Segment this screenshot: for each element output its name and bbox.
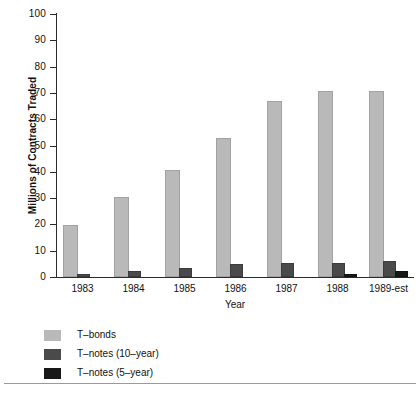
chart-legend: T–bondsT–notes (10–year)T–notes (5–year)	[44, 327, 344, 384]
chart-figure: 0102030405060708090100 Millions of Contr…	[0, 0, 420, 394]
legend-label: T–bonds	[77, 328, 116, 341]
y-axis-tick	[50, 277, 56, 278]
legend-item: T–notes (10–year)	[44, 346, 344, 365]
bar	[114, 197, 129, 277]
y-axis-tick-label: 90	[12, 35, 46, 45]
y-axis-title-holder: Millions of Contracts Traded	[14, 0, 15, 290]
bar	[344, 274, 357, 277]
y-axis-title: Millions of Contracts Traded	[27, 56, 38, 236]
y-axis-tick	[50, 67, 56, 68]
bar-group	[210, 14, 261, 277]
y-axis-tick-label: 100	[12, 9, 46, 19]
legend-label: T–notes (10–year)	[77, 347, 159, 360]
x-axis-line	[56, 277, 414, 278]
footer-divider	[4, 383, 416, 384]
bar	[395, 271, 408, 277]
y-axis-tick	[50, 119, 56, 120]
bar	[230, 264, 243, 277]
legend-swatch	[44, 330, 61, 341]
y-axis-tick	[50, 93, 56, 94]
bar	[267, 101, 282, 277]
y-axis-tick	[50, 224, 56, 225]
legend-item: T–bonds	[44, 327, 344, 346]
legend-swatch	[44, 368, 61, 379]
bar	[128, 271, 141, 277]
bar	[63, 225, 78, 277]
y-axis-tick-label: 10	[12, 246, 46, 256]
bar	[369, 91, 384, 277]
cropped-top-text	[30, 0, 230, 3]
y-axis-tick-label-text: 100	[20, 9, 46, 19]
legend-item: T–notes (5–year)	[44, 365, 344, 384]
y-axis-tick-label: 0	[12, 272, 46, 282]
legend-label: T–notes (5–year)	[77, 366, 153, 379]
bar-group	[363, 14, 414, 277]
bar	[318, 91, 333, 277]
bar	[179, 268, 192, 277]
x-axis-title: Year	[56, 299, 414, 310]
bar-group	[312, 14, 363, 277]
bar	[165, 170, 180, 277]
x-axis-tick-label: 1989-est	[349, 283, 420, 294]
bar-group	[261, 14, 312, 277]
y-axis-tick	[50, 172, 56, 173]
bar-group	[159, 14, 210, 277]
y-axis-tick	[50, 40, 56, 41]
y-axis-tick	[50, 251, 56, 252]
bar	[77, 274, 90, 277]
plot-area	[57, 14, 414, 277]
legend-swatch	[44, 349, 61, 360]
y-axis-tick	[50, 198, 56, 199]
bar	[281, 263, 294, 277]
y-axis-tick-label-text: 90	[20, 35, 46, 45]
y-axis-tick	[50, 14, 56, 15]
bar-group	[57, 14, 108, 277]
y-axis-tick-label-text: 0	[20, 272, 46, 282]
bar-group	[108, 14, 159, 277]
y-axis-tick-label-text: 10	[20, 246, 46, 256]
bar	[216, 138, 231, 277]
y-axis-tick	[50, 146, 56, 147]
